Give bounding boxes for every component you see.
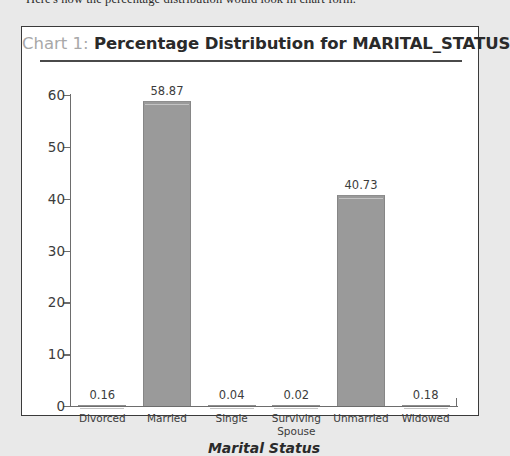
y-axis-tick-label: 0 (56, 398, 65, 414)
x-axis-category-label: Single (216, 412, 248, 425)
bar-value-label: 58.87 (151, 84, 184, 98)
x-axis-title: Marital Status (70, 440, 458, 456)
x-axis-category-label: Unmarried (333, 412, 389, 425)
x-axis-category-label: Widowed (402, 412, 450, 425)
bar (402, 405, 450, 406)
chart-title-prefix: Chart 1: (22, 34, 89, 53)
y-axis-tick-label: 60 (48, 87, 65, 103)
intro-sentence: Here's how the percentage distribution w… (26, 0, 486, 7)
bar-value-label: 0.04 (219, 388, 245, 402)
chart-panel: Chart 1: Percentage Distribution for MAR… (21, 26, 479, 416)
bar-value-label: 0.16 (90, 388, 116, 402)
x-axis-line (70, 406, 458, 407)
x-axis-end-cap (456, 398, 457, 407)
bar-value-label: 0.02 (284, 388, 310, 402)
x-axis-category-label: Surviving Spouse (272, 412, 321, 437)
x-axis-category-label: Married (147, 412, 187, 425)
y-axis-tick-label: 50 (48, 139, 65, 155)
bar (143, 101, 191, 406)
plot-area: 0102030405060 0.1658.870.040.0240.730.18… (70, 68, 460, 374)
bar (272, 405, 320, 406)
y-axis-tick-label: 20 (48, 294, 65, 310)
x-axis-category-label: Divorced (79, 412, 126, 425)
bar-value-label: 40.73 (345, 178, 378, 192)
y-axis-line (70, 94, 71, 407)
bar (78, 405, 126, 406)
bar-value-label: 0.18 (413, 388, 439, 402)
y-axis-tick-label: 10 (48, 346, 65, 362)
title-divider (40, 60, 462, 62)
chart-title: Chart 1: Percentage Distribution for MAR… (22, 33, 478, 55)
y-axis-tick-label: 30 (48, 243, 65, 259)
bar (337, 195, 385, 406)
y-axis-tick-label: 40 (48, 191, 65, 207)
bar (208, 405, 256, 406)
chart-title-main: Percentage Distribution for MARITAL_STAT… (94, 34, 510, 53)
